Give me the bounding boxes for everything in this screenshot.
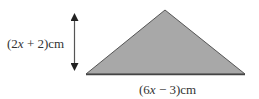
triangle-diagram: (2x + 2)cm (6x − 3)cm — [0, 0, 259, 99]
height-label: (2x + 2)cm — [7, 36, 64, 51]
base-label: (6x − 3)cm — [139, 82, 196, 97]
triangle-shape — [86, 10, 245, 74]
